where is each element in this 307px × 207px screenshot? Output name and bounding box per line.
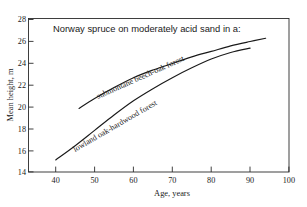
y-axis-tick-labels: 28 26 24 22 20 18 16 14	[18, 15, 26, 176]
x-tick-label-90: 90	[246, 176, 254, 185]
y-tick-label-28: 28	[18, 15, 26, 24]
y-tick-label-16: 16	[18, 147, 26, 156]
chart-figure: 28 26 24 22 20 18 16 14 40 50 60 70 80 9…	[0, 0, 307, 207]
y-tick-label-18: 18	[18, 125, 26, 134]
x-axis-tick-labels: 40 50 60 70 80 90 100	[52, 176, 295, 185]
series-label-lowland-oak-hardwood-forest: lowland oak-hardwood forest	[72, 98, 160, 154]
x-tick-label-100: 100	[283, 176, 295, 185]
y-tick-label-22: 22	[18, 81, 26, 90]
y-axis-ticks	[29, 20, 34, 172]
x-tick-label-60: 60	[129, 176, 137, 185]
y-axis-title: Mean height, m	[6, 68, 15, 121]
y-tick-label-24: 24	[18, 59, 26, 68]
x-axis-title: Age, years	[154, 189, 190, 198]
x-axis-ticks	[56, 167, 289, 172]
x-tick-label-50: 50	[91, 176, 99, 185]
chart-canvas: 28 26 24 22 20 18 16 14 40 50 60 70 80 9…	[0, 0, 307, 207]
series-submontane-beech-oak-forest-curve	[79, 38, 266, 108]
x-tick-label-40: 40	[52, 176, 60, 185]
y-tick-label-14: 14	[18, 168, 26, 177]
y-tick-label-20: 20	[18, 103, 26, 112]
x-tick-label-80: 80	[207, 176, 215, 185]
x-tick-label-70: 70	[168, 176, 176, 185]
y-tick-label-26: 26	[18, 37, 26, 46]
chart-title: Norway spruce on moderately acid sand in…	[53, 23, 241, 34]
